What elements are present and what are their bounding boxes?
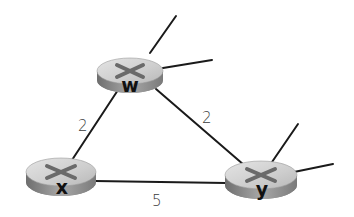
router-label-x: x <box>56 176 68 198</box>
stub-link-y-2 <box>294 164 333 172</box>
stub-link-w-2 <box>163 60 212 68</box>
link-w-y <box>156 89 244 165</box>
router-label-y: y <box>256 178 269 200</box>
router-x[interactable]: x <box>26 158 96 198</box>
router-w[interactable]: w <box>97 58 163 96</box>
stub-link-y-1 <box>272 124 298 162</box>
edge-cost-x-y: 5 <box>152 192 162 210</box>
network-diagram: 2 2 5 w x y <box>0 0 354 217</box>
edge-cost-w-y: 2 <box>202 109 212 127</box>
router-y[interactable]: y <box>225 161 297 200</box>
stub-link-w-1 <box>150 16 176 53</box>
router-label-w: w <box>121 74 139 96</box>
links <box>72 16 333 183</box>
link-x-y <box>95 181 226 183</box>
edge-cost-w-x: 2 <box>78 117 88 135</box>
